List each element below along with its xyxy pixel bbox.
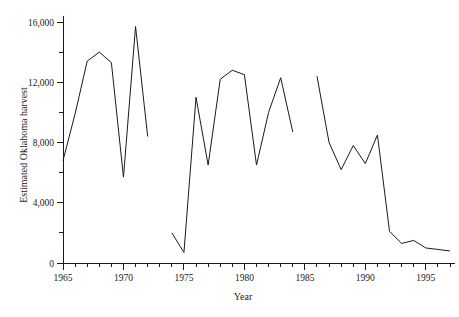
x-tick-label: 1990 — [356, 273, 375, 283]
y-axis-ticks — [57, 22, 63, 263]
y-tick-label: 8,000 — [33, 138, 55, 148]
data-line-segment — [172, 70, 293, 252]
axis-lines — [63, 16, 455, 263]
x-tick-label: 1965 — [54, 273, 73, 283]
x-tick-label: 1985 — [295, 273, 314, 283]
y-tick-label: 0 — [49, 259, 54, 269]
x-tick-label: 1995 — [416, 273, 435, 283]
y-axis-tick-labels: 04,0008,00012,00016,000 — [28, 18, 54, 269]
data-line-segment — [136, 27, 148, 137]
x-axis-title: Year — [234, 291, 253, 302]
x-tick-label: 1975 — [174, 273, 193, 283]
x-tick-label: 1970 — [114, 273, 133, 283]
chart-figure: 04,0008,00012,00016,000 1965197019751980… — [0, 0, 459, 317]
x-axis-tick-labels: 1965197019751980198519901995 — [54, 273, 436, 283]
y-axis-title: Estimated Oklahoma harvest — [18, 87, 29, 203]
y-tick-label: 4,000 — [33, 198, 55, 208]
x-axis-ticks — [63, 263, 450, 270]
data-line-segment — [317, 76, 450, 251]
line-chart: 04,0008,00012,00016,000 1965197019751980… — [0, 0, 459, 317]
data-line-segment — [63, 27, 136, 178]
y-tick-label: 12,000 — [28, 78, 54, 88]
data-series-lines — [63, 27, 450, 253]
y-tick-label: 16,000 — [28, 18, 54, 28]
x-tick-label: 1980 — [235, 273, 254, 283]
